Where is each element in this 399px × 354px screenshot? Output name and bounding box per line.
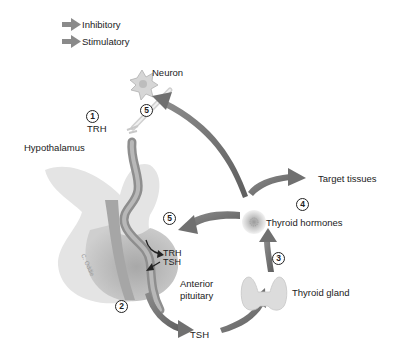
- legend-stimulatory-label: Stimulatory: [82, 37, 130, 47]
- inhibitory-arrow-to-neuron: [163, 100, 248, 198]
- tsh-pituitary-label: TSH: [163, 258, 181, 267]
- step-5-neuron-badge: 5: [140, 104, 153, 117]
- thyroid-gland-label: Thyroid gland: [292, 288, 350, 298]
- step-5-pituitary-badge: 5: [163, 212, 176, 225]
- neuron-label: Neuron: [152, 68, 183, 78]
- tsh-bottom-label: TSH: [190, 330, 209, 340]
- step-4-badge: 4: [296, 198, 309, 211]
- legend-stimulatory-icon: [62, 35, 81, 48]
- thyroid-hormones-icon: [242, 210, 266, 234]
- hypothalamus-label: Hypothalamus: [24, 143, 85, 153]
- thyroid-hormones-label: Thyroid hormones: [266, 218, 343, 228]
- target-tissues-label: Target tissues: [318, 174, 377, 184]
- step-2-badge: 2: [115, 300, 128, 313]
- step-3-badge: 3: [272, 252, 285, 265]
- legend-inhibitory-label: Inhibitory: [82, 20, 121, 30]
- trh-top-label: TRH: [87, 124, 107, 134]
- arrow-to-target-tissues: [248, 174, 290, 196]
- thyroid-gland-shape: [241, 277, 287, 310]
- anterior-pituitary-label-1: Anterior: [180, 279, 213, 289]
- anterior-pituitary-label-2: pituitary: [180, 291, 213, 301]
- step-1-badge: 1: [86, 110, 99, 123]
- legend-inhibitory-icon: [62, 18, 81, 31]
- arrowhead-target: [288, 168, 306, 186]
- hypothalamus-shape: [45, 164, 178, 303]
